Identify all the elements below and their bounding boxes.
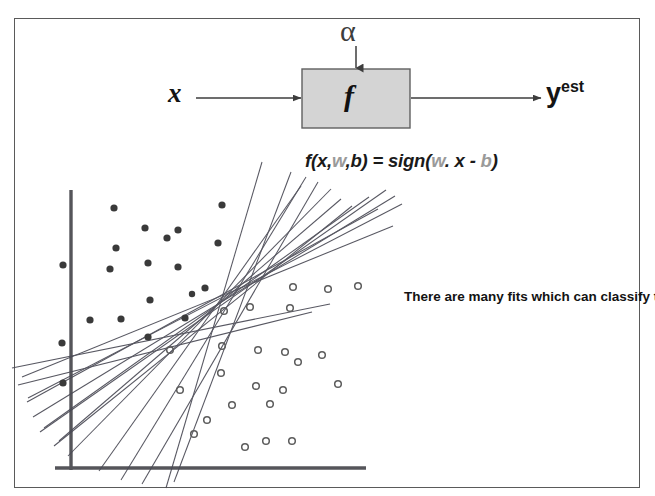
data-point-filled: [144, 333, 151, 340]
data-point-open: [263, 438, 270, 445]
data-point-open: [355, 283, 362, 290]
data-point-filled: [218, 201, 225, 208]
function-symbol-label: f: [344, 79, 354, 113]
data-point-open: [247, 304, 254, 311]
function-box: [302, 69, 410, 128]
explanatory-caption: There are many fits which can classify t…: [404, 287, 614, 307]
data-point-filled: [201, 284, 208, 291]
data-point-open: [229, 402, 236, 409]
data-point-filled: [112, 244, 119, 251]
fit-line: [27, 209, 378, 402]
data-point-open: [290, 284, 297, 291]
fit-line: [166, 162, 262, 488]
data-point-open: [319, 352, 326, 359]
fit-line: [68, 189, 331, 456]
formula-x2: x: [455, 150, 465, 171]
data-point-open: [287, 305, 294, 312]
fit-line: [54, 206, 352, 446]
data-point-filled: [59, 261, 66, 268]
data-point-filled: [144, 259, 151, 266]
data-point-open: [289, 438, 296, 445]
fit-line: [18, 312, 312, 385]
data-point-filled: [214, 239, 221, 246]
formula-end: ): [492, 150, 498, 171]
formula-x1: x: [317, 150, 327, 171]
formula-dot: .: [445, 150, 455, 171]
data-point-filled: [181, 314, 188, 321]
formula-b1: b: [350, 150, 361, 171]
data-point-filled: [86, 316, 93, 323]
formula-f-open: f(: [305, 150, 317, 171]
data-point-filled: [174, 226, 181, 233]
data-point-open: [255, 347, 262, 354]
data-point-open: [295, 359, 302, 366]
fit-line: [59, 199, 341, 441]
data-point-open: [280, 387, 287, 394]
data-point-filled: [189, 291, 195, 297]
output-variable-superscript: est: [561, 78, 584, 95]
data-point-filled: [58, 339, 65, 346]
data-point-open: [218, 370, 225, 377]
decision-function-formula: f(x,w,b) = sign(w. x - b): [305, 150, 498, 172]
data-point-filled: [163, 234, 170, 241]
block-diagram-group: [196, 46, 541, 128]
data-point-open: [282, 349, 289, 356]
data-point-filled: [59, 379, 66, 386]
formula-w1: w: [332, 150, 346, 171]
input-variable-label: x: [168, 78, 182, 109]
data-point-open: [325, 286, 332, 293]
fit-line: [12, 304, 330, 368]
data-point-open: [242, 444, 249, 451]
data-point-filled: [110, 204, 117, 211]
fit-line: [99, 186, 301, 471]
formula-minus: -: [465, 150, 481, 171]
data-point-filled: [174, 263, 181, 270]
data-point-filled: [146, 296, 153, 303]
data-point-open: [335, 381, 342, 388]
data-point-open: [204, 417, 211, 424]
data-point-filled: [141, 224, 148, 231]
output-variable-base: y: [546, 78, 561, 108]
formula-b2: b: [481, 150, 492, 171]
data-point-filled: [117, 315, 124, 322]
fit-line: [44, 197, 369, 428]
output-variable-label: yest: [546, 78, 584, 109]
parameter-alpha-label: α: [340, 14, 356, 48]
slide-canvas: x α f yest f(x,w,b) = sign(w. x - b) The…: [0, 0, 655, 496]
diagram-vector-layer: [0, 0, 655, 496]
data-point-open: [177, 387, 184, 394]
data-point-open: [253, 383, 260, 390]
data-point-filled: [106, 265, 113, 272]
formula-close-eq: ) = sign(: [362, 150, 432, 171]
data-point-open: [267, 401, 274, 408]
formula-w2: w: [431, 150, 445, 171]
